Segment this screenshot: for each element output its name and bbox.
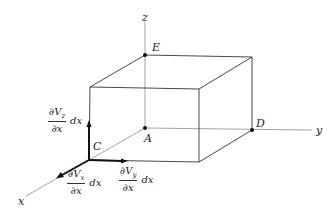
label-D: D xyxy=(256,118,265,129)
y-axis-label: y xyxy=(316,125,322,136)
z-axis-label: z xyxy=(142,12,148,23)
y-axis xyxy=(145,128,312,130)
x-axis-label: x xyxy=(18,196,24,207)
diagram-canvas: z y x E A D C ∂Vz ∂x dx ∂Vx ∂x dx ∂Vy ∂x… xyxy=(0,0,336,217)
vy-arrow xyxy=(89,160,122,161)
label-C: C xyxy=(93,141,101,152)
vz-label: ∂Vz ∂x dx xyxy=(48,106,82,134)
vy-label: ∂Vy ∂x dx xyxy=(119,165,153,193)
points xyxy=(143,53,254,132)
vx-label: ∂Vx ∂x dx xyxy=(67,168,101,196)
point-D xyxy=(250,128,254,132)
point-E xyxy=(143,53,147,57)
point-A xyxy=(143,126,147,130)
label-A: A xyxy=(144,133,152,144)
label-E: E xyxy=(152,42,160,53)
